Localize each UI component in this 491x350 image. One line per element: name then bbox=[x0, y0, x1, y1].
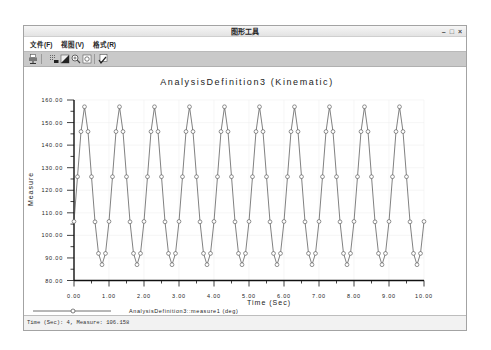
x-tick-label: 0.00 bbox=[67, 293, 81, 299]
window-controls: – □ × bbox=[442, 26, 462, 37]
data-point-marker bbox=[202, 252, 206, 256]
x-tick-label: 1.00 bbox=[102, 293, 116, 299]
zoom-fit-icon[interactable] bbox=[82, 54, 92, 64]
y-tick-label: 150.00 bbox=[41, 120, 63, 126]
data-point-marker bbox=[419, 252, 423, 256]
data-point-marker bbox=[177, 220, 181, 224]
x-tick-label: 6.00 bbox=[277, 293, 291, 299]
data-point-marker bbox=[114, 130, 118, 134]
data-point-marker bbox=[261, 130, 265, 134]
toolbar bbox=[24, 51, 466, 67]
data-point-marker bbox=[226, 130, 230, 134]
data-point-marker bbox=[240, 263, 244, 267]
data-point-marker bbox=[293, 105, 297, 109]
data-point-marker bbox=[86, 130, 90, 134]
data-point-marker bbox=[195, 175, 199, 179]
y-tick-label: 80.00 bbox=[45, 278, 63, 284]
data-point-marker bbox=[387, 220, 391, 224]
data-point-marker bbox=[72, 220, 76, 224]
title-bar[interactable]: 图形工具 – □ × bbox=[24, 26, 466, 37]
data-point-marker bbox=[244, 252, 248, 256]
data-point-marker bbox=[408, 220, 412, 224]
data-point-marker bbox=[132, 252, 136, 256]
window-title: 图形工具 bbox=[24, 26, 466, 37]
data-point-marker bbox=[76, 175, 80, 179]
status-text: Time (Sec): 4, Measure: 106.158 bbox=[27, 319, 129, 326]
data-point-marker bbox=[265, 175, 269, 179]
menu-format[interactable]: 格式(R) bbox=[93, 39, 116, 49]
y-tick-label: 90.00 bbox=[45, 255, 63, 261]
data-point-marker bbox=[163, 220, 167, 224]
data-point-marker bbox=[233, 220, 237, 224]
data-point-marker bbox=[282, 220, 286, 224]
legend-label: AnalysisDefinition3::measure1 (deg) bbox=[129, 308, 238, 314]
data-point-marker bbox=[142, 220, 146, 224]
status-bar: Time (Sec): 4, Measure: 106.158 bbox=[24, 315, 466, 330]
plot-area[interactable]: AnalysisDefinition3 (Kinematic) 80.0090.… bbox=[24, 67, 466, 317]
data-point-marker bbox=[237, 252, 241, 256]
data-point-marker bbox=[384, 252, 388, 256]
data-point-marker bbox=[359, 130, 363, 134]
data-point-marker bbox=[338, 220, 342, 224]
data-point-marker bbox=[398, 105, 402, 109]
data-point-marker bbox=[125, 175, 129, 179]
data-point-marker bbox=[100, 263, 104, 267]
x-tick-label: 2.00 bbox=[137, 293, 151, 299]
x-tick-label: 4.00 bbox=[207, 293, 221, 299]
data-point-marker bbox=[191, 130, 195, 134]
fill-color-icon[interactable] bbox=[60, 54, 70, 64]
y-tick-label: 120.00 bbox=[41, 187, 63, 193]
data-point-marker bbox=[118, 105, 122, 109]
data-point-marker bbox=[111, 175, 115, 179]
y-tick-label: 100.00 bbox=[41, 232, 63, 238]
maximize-button[interactable]: □ bbox=[450, 26, 454, 37]
edit-check-icon[interactable] bbox=[98, 54, 108, 64]
data-point-marker bbox=[97, 252, 101, 256]
y-tick-label: 110.00 bbox=[42, 210, 63, 216]
data-point-marker bbox=[83, 105, 87, 109]
print-icon[interactable] bbox=[28, 54, 38, 64]
data-point-marker bbox=[254, 130, 258, 134]
x-tick-label: 5.00 bbox=[242, 293, 256, 299]
data-point-marker bbox=[317, 220, 321, 224]
data-point-marker bbox=[160, 175, 164, 179]
line-chart[interactable]: AnalysisDefinition3 (Kinematic) 80.0090.… bbox=[24, 67, 468, 317]
grid-lines bbox=[74, 100, 424, 281]
close-button[interactable]: × bbox=[458, 26, 462, 37]
menu-view[interactable]: 视图(V) bbox=[61, 39, 84, 49]
minimize-button[interactable]: – bbox=[442, 26, 446, 37]
zoom-in-icon[interactable] bbox=[71, 54, 81, 64]
data-point-marker bbox=[321, 175, 325, 179]
legend-marker-icon bbox=[71, 309, 75, 313]
graph-tool-window: 图形工具 – □ × 文件(F) 视图(V) 格式(R) bbox=[23, 25, 467, 331]
data-point-marker bbox=[328, 105, 332, 109]
data-point-marker bbox=[107, 220, 111, 224]
data-point-marker bbox=[310, 263, 314, 267]
data-point-marker bbox=[275, 263, 279, 267]
legend[interactable]: AnalysisDefinition3::measure1 (deg) bbox=[33, 308, 238, 314]
data-point-marker bbox=[324, 130, 328, 134]
data-point-marker bbox=[342, 252, 346, 256]
grid-format-icon[interactable] bbox=[49, 54, 59, 64]
data-point-marker bbox=[405, 175, 409, 179]
y-axis: 80.0090.00100.00110.00120.00130.00140.00… bbox=[41, 97, 74, 284]
data-point-marker bbox=[349, 252, 353, 256]
data-point-marker bbox=[289, 130, 293, 134]
x-axis: 0.001.002.003.004.005.006.007.008.009.00… bbox=[67, 281, 433, 299]
x-tick-label: 9.00 bbox=[382, 293, 396, 299]
data-point-marker bbox=[412, 252, 416, 256]
data-point-marker bbox=[90, 175, 94, 179]
data-point-marker bbox=[303, 220, 307, 224]
x-tick-label: 7.00 bbox=[312, 293, 326, 299]
data-point-marker bbox=[366, 130, 370, 134]
data-point-marker bbox=[314, 252, 318, 256]
data-point-marker bbox=[170, 263, 174, 267]
data-point-marker bbox=[167, 252, 171, 256]
data-point-marker bbox=[198, 220, 202, 224]
data-point-marker bbox=[128, 220, 132, 224]
menu-file[interactable]: 文件(F) bbox=[30, 39, 52, 49]
data-point-marker bbox=[153, 105, 157, 109]
data-point-marker bbox=[139, 252, 143, 256]
data-point-marker bbox=[363, 105, 367, 109]
x-tick-label: 3.00 bbox=[172, 293, 186, 299]
